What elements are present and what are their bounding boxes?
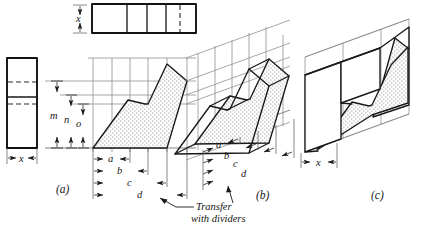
side-view-group: x <box>7 58 37 164</box>
dimension-x-top-view: x <box>73 5 87 33</box>
dim-label-m: m <box>50 110 58 121</box>
dimension-x-side-view: x <box>7 149 37 164</box>
top-view-group: x <box>73 4 196 33</box>
ob-dim-d-arrow-left <box>203 181 213 185</box>
transfer-note-arrowhead <box>160 198 168 204</box>
front-view-profile <box>93 64 187 148</box>
finished-upper-step-face <box>341 48 380 103</box>
front-view-group: m n o <box>45 58 196 200</box>
figure-page: x x <box>0 0 427 235</box>
finished-oblique-group: x (c) <box>301 19 409 202</box>
side-view-outline <box>7 58 37 148</box>
ob-dim-label-b: b <box>224 150 229 161</box>
ob-dim-c-arrow-left <box>203 170 213 174</box>
dimension-m: m <box>50 81 63 148</box>
engineering-figure: x x <box>0 0 427 235</box>
dim-label-c: c <box>127 177 132 188</box>
transfer-note-line1: Transfer <box>196 201 233 212</box>
ob-dim-label-d: d <box>241 168 247 179</box>
ob-dim-d-arrow-right <box>282 152 292 156</box>
oblique-construction-group: a b c d <box>175 20 294 203</box>
dim-label-o: o <box>76 118 81 129</box>
transfer-note-line2: with dividers <box>191 213 246 224</box>
ob-grid-r-top <box>186 20 290 58</box>
ob-dim-label-a: a <box>216 139 221 150</box>
ob-dim-c-arrow-right <box>264 148 274 152</box>
finished-left-face <box>305 62 341 152</box>
dim-label-n: n <box>64 114 69 125</box>
oblique-dim-d: d <box>203 152 292 185</box>
ob-dim-b-arrow-left <box>203 159 213 163</box>
dimension-b: b <box>94 165 147 176</box>
ob-dim-a-arrow-left <box>203 148 213 152</box>
dim-label-b: b <box>117 165 122 176</box>
view-label-c: (c) <box>371 189 384 202</box>
oblique-profile-far <box>195 59 289 144</box>
dimension-d: d <box>94 189 186 200</box>
dim-label-d: d <box>137 189 143 200</box>
dimension-a: a <box>94 153 129 164</box>
dim-label-a: a <box>108 153 113 164</box>
dimension-o: o <box>76 104 89 148</box>
dim-label-x-finished: x <box>315 157 321 168</box>
ob-dim-label-c: c <box>233 158 238 169</box>
dim-label-x-top: x <box>75 13 81 24</box>
oblique-dim-c: c <box>203 148 274 174</box>
dim-label-x-side: x <box>18 153 24 164</box>
view-label-a: (a) <box>56 183 70 196</box>
view-label-b: (b) <box>256 189 270 202</box>
dimension-c: c <box>94 177 166 188</box>
